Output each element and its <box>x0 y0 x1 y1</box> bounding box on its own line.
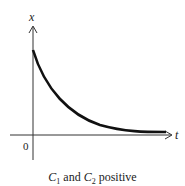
decay-chart: x t 0 <box>0 0 185 186</box>
decay-curve <box>33 50 166 132</box>
chart-caption: C1 and C2 positive <box>0 170 185 186</box>
y-axis-label: x <box>28 10 35 24</box>
origin-label: 0 <box>23 140 29 152</box>
x-axis-label: t <box>175 128 179 142</box>
